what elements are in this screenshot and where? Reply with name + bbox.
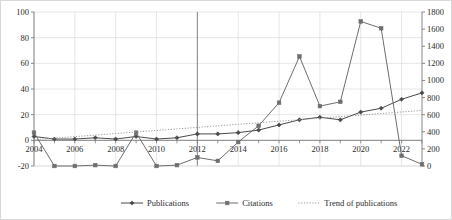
series-point-citations <box>73 164 77 168</box>
series-point-citations <box>175 163 179 167</box>
chart-frame: -200204060801000200400600800100012001400… <box>0 0 452 220</box>
series-point-citations <box>236 140 240 144</box>
series-point-publications <box>399 97 403 101</box>
x-axis-tick-label: 2014 <box>230 144 248 154</box>
series-point-citations <box>400 154 404 158</box>
series-point-publications <box>379 106 383 110</box>
series-point-citations <box>53 164 57 168</box>
legend-label-trend-of-publications: Trend of publications <box>324 198 397 208</box>
series-point-citations <box>114 164 118 168</box>
y-axis-right-tick-label: 400 <box>427 127 440 137</box>
series-point-citations <box>298 55 302 59</box>
series-point-citations <box>216 159 220 163</box>
x-axis-tick-label: 2012 <box>189 144 206 154</box>
series-point-publications <box>236 131 240 135</box>
y-axis-right-tick-label: 1800 <box>427 7 444 17</box>
series-point-publications <box>277 123 281 127</box>
y-axis-left-tick-label: 60 <box>21 58 30 68</box>
y-axis-right-tick-label: 800 <box>427 93 440 103</box>
y-axis-left-tick-label: 20 <box>21 110 30 120</box>
series-point-citations <box>32 131 36 135</box>
series-point-publications <box>318 115 322 119</box>
series-point-publications <box>175 136 179 140</box>
series-point-publications <box>195 132 199 136</box>
series-point-citations <box>134 131 138 135</box>
series-point-citations <box>318 104 322 108</box>
x-axis-tick-label: 2006 <box>66 144 83 154</box>
series-point-citations <box>93 163 97 167</box>
y-axis-right-tick-label: 1000 <box>427 75 444 85</box>
y-axis-right-tick-label: 1600 <box>427 24 444 34</box>
series-point-citations <box>339 100 343 104</box>
series-point-citations <box>420 162 424 166</box>
legend-marker-publications <box>130 201 134 205</box>
x-axis-tick-label: 2018 <box>311 144 328 154</box>
series-point-citations <box>379 26 383 30</box>
x-axis-tick-label: 2020 <box>352 144 369 154</box>
x-axis-tick-label: 2004 <box>26 144 44 154</box>
y-axis-left-tick-label: 80 <box>21 33 30 43</box>
x-axis-tick-label: 2010 <box>148 144 165 154</box>
y-axis-right-tick-label: 200 <box>427 144 440 154</box>
series-line-publications[interactable] <box>34 93 422 139</box>
y-axis-right-tick-label: 600 <box>427 110 440 120</box>
y-axis-right-tick-label: 0 <box>427 161 431 171</box>
series-point-citations <box>277 101 281 105</box>
legend-label-citations: Citations <box>242 198 273 208</box>
x-axis-tick-label: 2016 <box>271 144 288 154</box>
legend-label-publications: Publications <box>147 198 189 208</box>
series-point-citations <box>196 156 200 160</box>
x-axis-tick-label: 2008 <box>107 144 124 154</box>
series-point-publications <box>359 110 363 114</box>
series-point-citations <box>257 124 261 128</box>
y-axis-left-tick-label: 100 <box>16 7 29 17</box>
y-axis-left-tick-label: 40 <box>21 84 30 94</box>
series-point-citations <box>359 20 363 24</box>
y-axis-left-tick-label: -20 <box>18 161 29 171</box>
y-axis-right-tick-label: 1400 <box>427 41 444 51</box>
series-point-publications <box>216 132 220 136</box>
combo-chart: -200204060801000200400600800100012001400… <box>1 1 452 220</box>
y-axis-right-tick-label: 1200 <box>427 58 444 68</box>
series-point-citations <box>155 164 159 168</box>
series-point-publications <box>257 128 261 132</box>
series-point-publications <box>93 136 97 140</box>
series-point-publications <box>338 118 342 122</box>
legend-marker-citations <box>225 201 229 205</box>
series-point-publications <box>420 91 424 95</box>
